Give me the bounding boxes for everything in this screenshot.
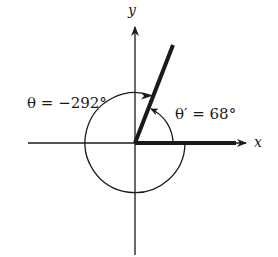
- reference-arc: [151, 109, 173, 143]
- y-axis-label: y: [128, 2, 136, 18]
- angle-diagram: y x θ = −292° θ′ = 68°: [0, 0, 278, 257]
- terminal-side: [135, 45, 173, 143]
- theta-label: θ = −292°: [27, 94, 107, 112]
- x-axis-label: x: [254, 134, 262, 150]
- reference-angle-label: θ′ = 68°: [175, 105, 236, 123]
- diagram-canvas: [0, 0, 278, 257]
